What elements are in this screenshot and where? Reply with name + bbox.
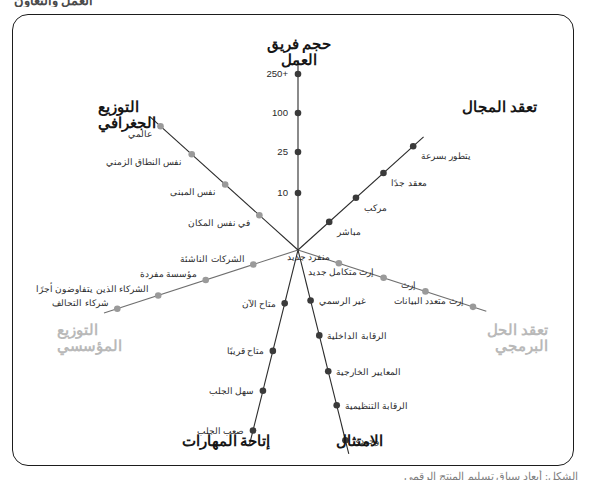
axis-title-team-size: حجم فريق العمل xyxy=(251,36,347,68)
tick-label-domain-complexity-1: معقد جدًا xyxy=(391,177,426,188)
tick-label-software-complexity-0: منفرد جديد xyxy=(287,251,330,262)
tick-label-skills-availability-2: سهل الجلب xyxy=(209,385,254,396)
tick-label-geographic-distribution-2: نفس النطاق الزمني xyxy=(106,156,183,167)
tick-label-software-complexity-2: إرث xyxy=(401,279,416,290)
tick-label-compliance-1: الرقابة الداخلية xyxy=(327,330,386,341)
tick-label-organizational-distribution-2: الشركاء الذين يتفاوضون أجرًا xyxy=(36,283,149,294)
tick-label-organizational-distribution-0: الشركات الناشئة xyxy=(180,253,244,264)
chart-labels-layer: 250+1002510يتطور بسرعةمعقد جدًامركبمباشر… xyxy=(0,0,594,480)
tick-label-geographic-distribution-1: نفس المبنى xyxy=(170,186,216,197)
tick-label-skills-availability-0: متاح الآن xyxy=(242,298,276,309)
tick-label-geographic-distribution-0: في نفس المكان xyxy=(188,217,250,228)
tick-label-compliance-0: غير الرسمي xyxy=(319,295,366,306)
cropped-caption-text: الشكل: أبعاد سياق تسليم المنتج الرقمي xyxy=(0,470,594,480)
axis-title-geographic-distribution: التوزيع الجغرافي xyxy=(98,99,194,131)
axis-title-domain-complexity: تعقد المجال xyxy=(441,99,537,115)
axis-title-compliance: الامتثال xyxy=(324,433,394,449)
tick-label-domain-complexity-0: يتطور بسرعة xyxy=(421,150,471,161)
tick-label-compliance-3: الرقابة التنظيمية xyxy=(345,400,408,411)
tick-label-organizational-distribution-1: مؤسسة مفردة xyxy=(140,268,197,279)
tick-label-organizational-distribution-3: شركاء التحالف xyxy=(52,297,108,308)
tick-label-team-size-1: 100 xyxy=(234,107,288,118)
tick-label-team-size-2: 25 xyxy=(234,146,288,157)
tick-label-domain-complexity-3: مباشر xyxy=(337,226,361,237)
tick-label-team-size-0: 250+ xyxy=(234,68,288,79)
tick-label-compliance-2: المعايير الخارجية xyxy=(336,366,400,377)
axis-title-software-complexity: تعقد الحل البرمجي xyxy=(452,322,548,354)
tick-label-skills-availability-1: متاح قريبًا xyxy=(227,345,264,356)
tick-label-domain-complexity-2: مركب xyxy=(364,202,387,213)
tick-label-software-complexity-3: إرث متعدد البيانات xyxy=(394,295,464,306)
figure-page: العمل والتعاون 250+1002510يتطور بسرعةمعق… xyxy=(0,0,594,480)
tick-label-team-size-3: 10 xyxy=(234,187,288,198)
axis-title-skills-availability: إتاحة المهارات xyxy=(170,433,282,449)
tick-label-software-complexity-1: إرث متكامل جديد xyxy=(308,266,375,277)
axis-title-organizational-distribution: التوزيع المؤسسي xyxy=(57,322,153,354)
